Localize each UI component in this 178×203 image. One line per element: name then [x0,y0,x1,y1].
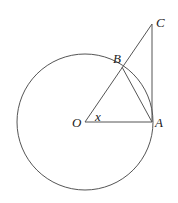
label-a: A [154,115,163,130]
label-o: O [72,115,82,130]
segment-oc [85,24,152,122]
label-c: C [156,15,165,30]
geometry-diagram: O A B C x [0,0,178,203]
label-b: B [113,51,121,66]
label-angle-x: x [94,109,101,124]
